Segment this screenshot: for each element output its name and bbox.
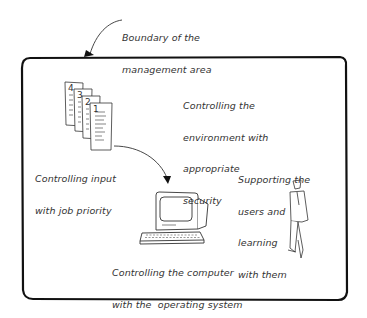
boundary-label-line: Boundary of the <box>122 33 212 44</box>
label-line: with the operating system <box>112 300 243 311</box>
boundary-arrow <box>90 20 122 54</box>
label-line: Controlling the computer <box>112 268 243 279</box>
label-line: Controlling input <box>35 174 116 185</box>
input-arrow <box>114 146 167 178</box>
boundary-label: Boundary of the management area <box>122 12 212 86</box>
boundary-label-line: management area <box>122 65 212 76</box>
input-label: Controlling input with job priority <box>35 153 116 227</box>
label-line: environment with <box>183 133 269 144</box>
label-line: with them <box>238 270 310 281</box>
users-label: Supporting the users and learning with t… <box>238 154 310 291</box>
label-line: learning <box>238 238 310 249</box>
computer-label: Controlling the computer with the operat… <box>112 247 243 318</box>
arrow-icon <box>163 176 171 184</box>
label-line: with job priority <box>35 206 116 217</box>
job-number-2: 2 <box>85 97 91 108</box>
label-line: users and <box>238 207 310 218</box>
job-number-4: 4 <box>68 83 74 94</box>
label-line: Controlling the <box>183 101 269 112</box>
job-number-3: 3 <box>77 90 83 101</box>
arrow-icon <box>84 50 94 57</box>
job-number-1: 1 <box>93 104 99 115</box>
label-line: Supporting the <box>238 175 310 186</box>
